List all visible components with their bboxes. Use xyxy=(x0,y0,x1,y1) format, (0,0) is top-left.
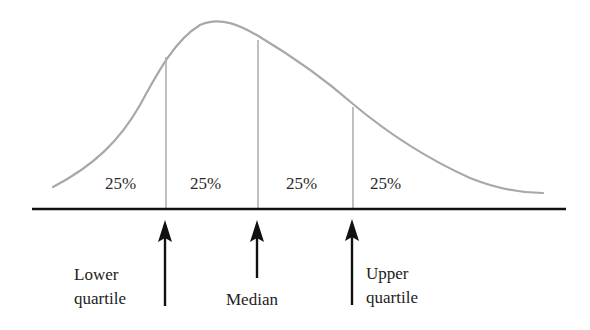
upper-quartile-arrow-icon xyxy=(345,219,359,305)
region-1-label: 25% xyxy=(105,174,136,194)
lower-quartile-arrow-icon xyxy=(158,220,172,306)
median-arrow-icon xyxy=(250,220,264,278)
median-label-line1: Median xyxy=(226,288,278,312)
lower-quartile-label-line1: Lower xyxy=(74,263,126,287)
lower-quartile-label-line2: quartile xyxy=(74,287,126,311)
lower-quartile-label: Lower quartile xyxy=(74,263,126,311)
upper-quartile-label-line2: quartile xyxy=(366,286,418,310)
upper-quartile-label-line1: Upper xyxy=(366,262,418,286)
distribution-curve xyxy=(53,21,543,193)
region-3-label: 25% xyxy=(286,174,317,194)
median-label: Median xyxy=(226,288,278,312)
region-2-label: 25% xyxy=(190,174,221,194)
region-4-label: 25% xyxy=(370,174,401,194)
upper-quartile-label: Upper quartile xyxy=(366,262,418,310)
